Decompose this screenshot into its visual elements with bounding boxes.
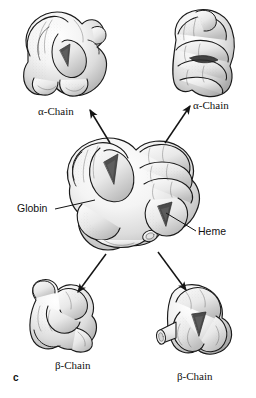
panel-letter: c <box>13 373 19 383</box>
label-beta-chain-left: β-Chain <box>55 360 91 371</box>
label-heme: Heme <box>198 226 226 237</box>
figure-illustration <box>0 0 256 398</box>
label-alpha-chain-right: α-Chain <box>193 100 229 111</box>
label-globin: Globin <box>17 203 47 214</box>
structure-alpha-chain-left <box>24 12 107 96</box>
structure-alpha-chain-right <box>173 10 234 97</box>
label-alpha-chain-left: α-Chain <box>38 106 74 117</box>
hemoglobin-figure: α-Chain α-Chain Globin Heme β-Chain β-Ch… <box>0 0 256 398</box>
label-beta-chain-right: β-Chain <box>177 371 213 382</box>
